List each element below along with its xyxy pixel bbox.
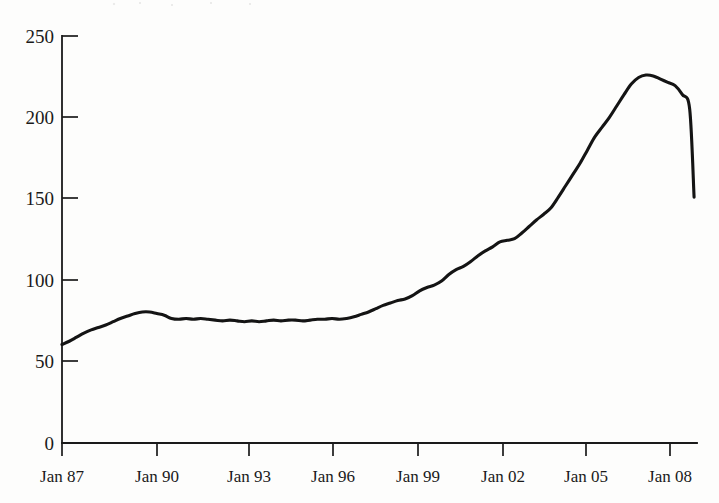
x-tick-label-jan-90: Jan 90 (135, 467, 179, 486)
x-tick-label-jan-96: Jan 96 (311, 467, 355, 486)
x-tick-label-jan-93: Jan 93 (227, 467, 271, 486)
x-tick-label-jan-87: Jan 87 (40, 467, 84, 486)
y-tick-label-100: 100 (26, 270, 55, 291)
y-tick-label-150: 150 (26, 188, 55, 209)
line-chart: 250 200 150 100 50 0 Jan 87 Jan 90 Jan 9… (0, 0, 719, 503)
y-tick-label-0: 0 (45, 433, 55, 454)
x-tick-label-jan-99: Jan 99 (396, 467, 440, 486)
x-axis-ticks (62, 443, 670, 456)
y-axis-ticks (62, 36, 78, 443)
data-series-line (62, 75, 694, 345)
axes (62, 36, 697, 443)
y-axis-tick-labels: 250 200 150 100 50 0 (26, 26, 55, 454)
x-tick-label-jan-05: Jan 05 (564, 467, 608, 486)
x-tick-label-jan-08: Jan 08 (648, 467, 692, 486)
y-tick-label-200: 200 (26, 107, 55, 128)
chart-page: 250 200 150 100 50 0 Jan 87 Jan 90 Jan 9… (0, 0, 719, 503)
x-tick-label-jan-02: Jan 02 (481, 467, 525, 486)
x-axis-tick-labels: Jan 87 Jan 90 Jan 93 Jan 96 Jan 99 Jan 0… (40, 467, 692, 486)
y-tick-label-50: 50 (35, 351, 54, 372)
y-tick-label-250: 250 (26, 26, 55, 47)
